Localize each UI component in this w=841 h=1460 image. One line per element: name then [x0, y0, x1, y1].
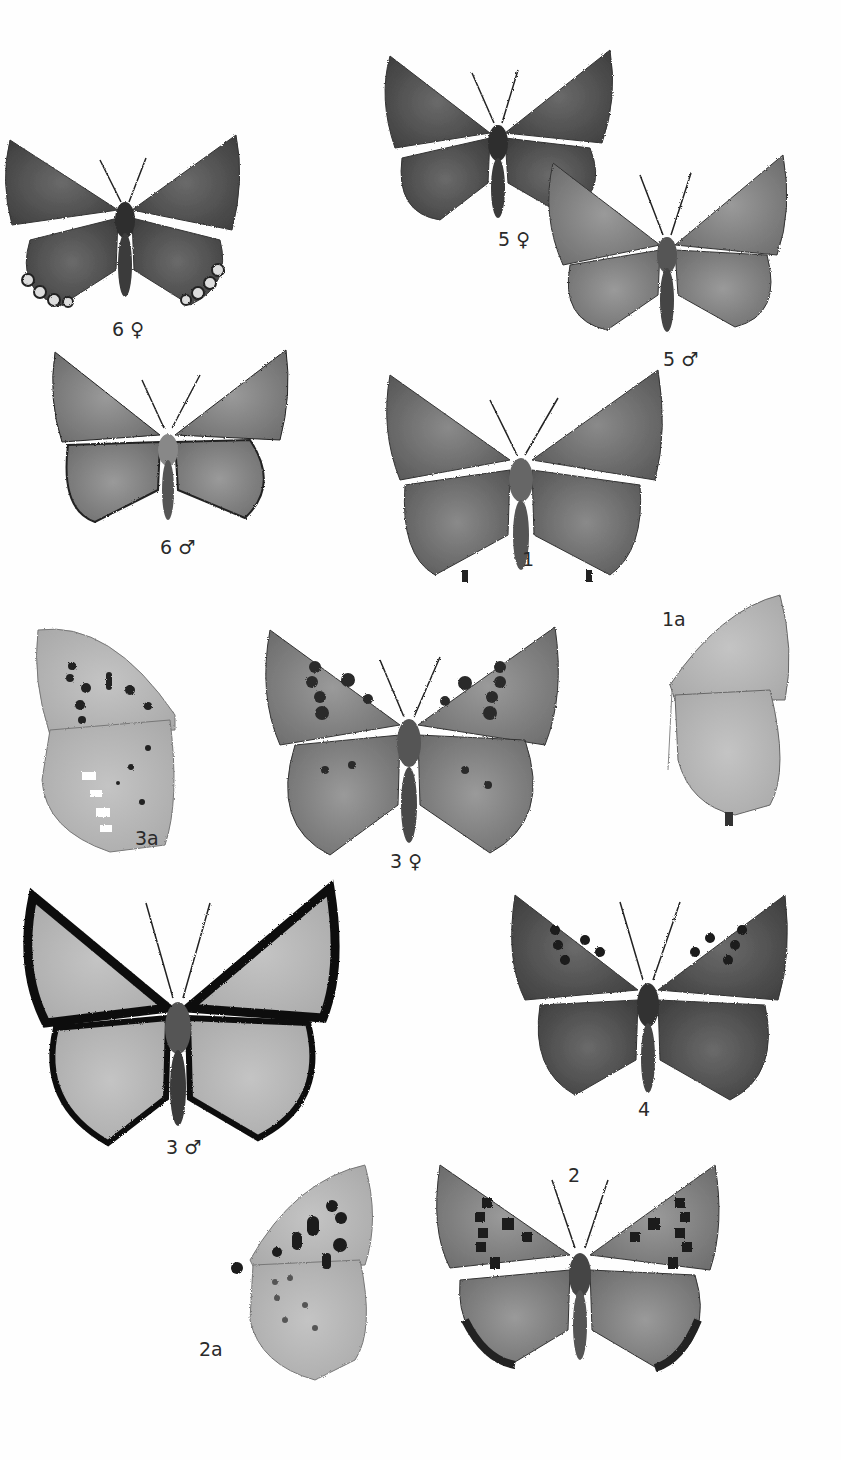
figure-label: 2a: [199, 1338, 223, 1360]
figure-label: 1a: [662, 608, 686, 630]
butterfly-illustration: [50, 350, 290, 525]
figure-6-male: 6 ♂: [50, 350, 290, 525]
butterfly-illustration: [430, 1160, 730, 1375]
figure-label: 5 ♀: [498, 228, 530, 250]
figure-5-male: 5 ♂: [545, 155, 790, 345]
figure-4: 4: [510, 890, 790, 1120]
figure-label: 1: [522, 548, 534, 570]
butterfly-illustration: [30, 620, 190, 855]
figure-3-male: 3 ♂: [18, 888, 338, 1158]
butterfly-illustration: [545, 155, 790, 345]
butterfly-illustration: [195, 1160, 385, 1385]
figure-label: 3 ♂: [166, 1136, 201, 1158]
figure-2a: 2a: [195, 1160, 385, 1385]
figure-label: 3 ♀: [390, 850, 422, 872]
figure-3-female: 3 ♀: [260, 625, 560, 870]
figure-1: 1: [380, 370, 665, 585]
figure-label: 5 ♂: [663, 348, 698, 370]
figure-2: 2: [430, 1160, 730, 1375]
butterfly-illustration: [0, 130, 250, 310]
figure-label: 6 ♂: [160, 536, 195, 558]
figure-label: 6 ♀: [112, 318, 144, 340]
butterfly-illustration: [510, 890, 790, 1120]
figure-label: 3a: [135, 827, 159, 849]
figure-3a: 3a: [30, 620, 190, 855]
figure-6-female: 6 ♀: [0, 130, 250, 310]
butterfly-illustration: [18, 888, 338, 1158]
figure-1a: 1a: [660, 590, 800, 840]
figure-label: 2: [568, 1164, 580, 1186]
butterfly-illustration: [260, 625, 560, 870]
figure-label: 4: [638, 1098, 650, 1120]
